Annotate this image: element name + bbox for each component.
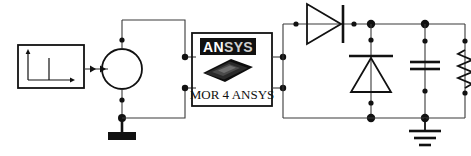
ansys-logo-dim-text: SYS bbox=[224, 39, 253, 55]
signal-flow-arrow bbox=[84, 66, 108, 73]
ansys-logo-bright-text: AN bbox=[203, 39, 224, 55]
mor-4-ansys-block[interactable]: AN SYS MOR 4 ANSYS bbox=[190, 33, 275, 106]
circuit-diagram: AN SYS MOR 4 ANSYS bbox=[0, 0, 471, 156]
junction-dot bbox=[293, 21, 298, 26]
input-signal-block[interactable] bbox=[18, 45, 84, 88]
junction-dot bbox=[368, 37, 373, 42]
junction-dot bbox=[351, 21, 356, 26]
output-ground bbox=[409, 118, 441, 145]
impulse-waveform-icon bbox=[26, 49, 75, 82]
source-ground-terminal bbox=[108, 118, 136, 140]
tilted-chip-icon bbox=[203, 59, 253, 82]
junction-dot bbox=[462, 38, 467, 43]
circuit-canvas: AN SYS MOR 4 ANSYS bbox=[0, 0, 471, 156]
junction-dot bbox=[182, 54, 188, 60]
junction-dot bbox=[462, 90, 467, 95]
junction-dot bbox=[368, 100, 373, 105]
junction-dot bbox=[422, 38, 427, 43]
junction-dot bbox=[119, 37, 124, 42]
junction-dot bbox=[182, 85, 188, 91]
filled-bar-ground-icon bbox=[108, 132, 136, 140]
mor-block-caption: MOR 4 ANSYS bbox=[190, 87, 275, 102]
junction-dot bbox=[422, 88, 427, 93]
wire-input-negative bbox=[122, 88, 185, 118]
junction-dot bbox=[119, 97, 124, 102]
